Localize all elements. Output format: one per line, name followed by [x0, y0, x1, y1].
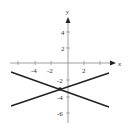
y-tick-label: 2 — [61, 45, 65, 53]
x-tick-label: -2 — [47, 67, 53, 75]
x-tick-label: 2 — [82, 67, 86, 75]
y-tick-label: -2 — [57, 77, 63, 85]
y-axis-arrow-icon — [66, 17, 71, 23]
x-axis-label: x — [117, 60, 122, 68]
x-tick-label: -4 — [31, 67, 37, 75]
y-tick-label: 4 — [61, 29, 65, 37]
coordinate-plane: x y -4 -2 2 4 2 -2 -4 -6 — [0, 0, 135, 131]
intersection-point — [58, 87, 62, 91]
y-tick-label: -4 — [57, 94, 63, 102]
y-axis-label: y — [65, 8, 70, 16]
y-tick-label: -6 — [57, 110, 63, 118]
x-axis-arrow-icon — [110, 61, 116, 66]
